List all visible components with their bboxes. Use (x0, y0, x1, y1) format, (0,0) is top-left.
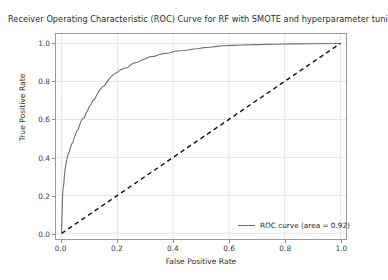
y-tick-label: 0.4 (38, 153, 50, 162)
y-tick-mark (52, 158, 55, 159)
y-tick-mark (52, 43, 55, 44)
y-tick-label: 0.6 (38, 115, 50, 124)
x-tick-mark (61, 240, 62, 243)
y-tick-mark (52, 234, 55, 235)
x-tick-label: 0.2 (111, 244, 123, 253)
x-tick-mark (229, 240, 230, 243)
legend-entry-label: ROC curve (area = 0.92) (260, 221, 350, 230)
y-tick-label: 1.0 (38, 38, 50, 47)
y-tick-label: 0.2 (38, 191, 50, 200)
x-tick-label: 0.8 (279, 244, 291, 253)
x-axis-label: False Positive Rate (55, 257, 347, 266)
x-tick-mark (285, 240, 286, 243)
series-chance-diagonal (62, 43, 341, 233)
y-axis-tick-labels: 0.00.20.40.60.81.0 (20, 33, 50, 240)
chart-series-layer (56, 34, 346, 239)
plot-area (55, 33, 347, 240)
y-tick-label: 0.0 (38, 230, 50, 239)
x-tick-label: 0.0 (55, 244, 67, 253)
page-title: Receiver Operating Characteristic (ROC) … (8, 14, 384, 24)
chart-legend: ROC curve (area = 0.92) (238, 221, 350, 230)
y-tick-mark (52, 119, 55, 120)
x-tick-label: 0.4 (167, 244, 179, 253)
y-tick-mark (52, 81, 55, 82)
x-tick-mark (117, 240, 118, 243)
y-tick-mark (52, 196, 55, 197)
x-tick-mark (173, 240, 174, 243)
y-tick-label: 0.8 (38, 76, 50, 85)
roc-curve-figure: Receiver Operating Characteristic (ROC) … (0, 0, 388, 280)
x-tick-mark (341, 240, 342, 243)
x-tick-label: 1.0 (335, 244, 347, 253)
legend-line-swatch (238, 225, 255, 226)
x-tick-label: 0.6 (223, 244, 235, 253)
x-axis-tick-labels: 0.00.20.40.60.81.0 (55, 244, 347, 256)
